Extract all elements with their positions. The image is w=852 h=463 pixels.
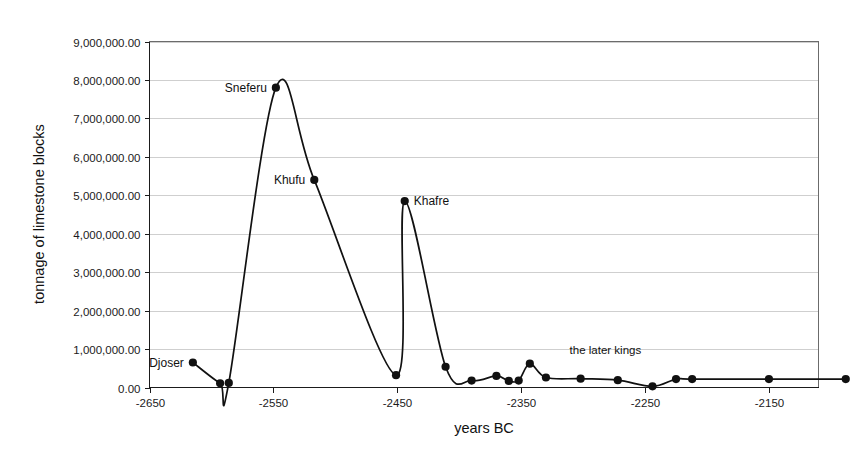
data-point-marker [401, 197, 409, 205]
chart-annotations: the later kings [570, 344, 642, 356]
x-tick-label: -2550 [259, 397, 288, 409]
data-point-marker [542, 373, 550, 381]
y-tick-label: 8,000,000.00 [73, 75, 140, 87]
y-tick-label: 1,000,000.00 [73, 344, 140, 356]
data-point-label: Sneferu [225, 81, 267, 95]
data-point-marker [468, 376, 476, 384]
chart-container: 0.001,000,000.002,000,000.003,000,000.00… [0, 0, 852, 463]
data-point-marker [216, 379, 224, 387]
y-tick-label: 2,000,000.00 [73, 306, 140, 318]
data-point-label: Djoser [149, 356, 184, 370]
y-tick-label: 4,000,000.00 [73, 229, 140, 241]
data-point-marker [272, 84, 280, 92]
data-point-label: Khufu [274, 173, 305, 187]
x-tick-label: -2250 [631, 397, 660, 409]
data-point-marker [505, 377, 513, 385]
y-axis-title: tonnage of limestone blocks [31, 124, 47, 304]
data-point-marker [688, 375, 696, 383]
data-point-marker [392, 371, 400, 379]
data-point-marker [648, 382, 656, 390]
data-point-marker [672, 375, 680, 383]
y-tick-label: 5,000,000.00 [73, 190, 140, 202]
x-tick-label: -2450 [383, 397, 412, 409]
data-point-marker [842, 375, 850, 383]
tonnage-line-chart: 0.001,000,000.002,000,000.003,000,000.00… [0, 0, 852, 463]
data-point-marker [577, 375, 585, 383]
data-point-marker [526, 360, 534, 368]
data-point-marker [515, 376, 523, 384]
data-point-marker [492, 372, 500, 380]
x-tick-label: -2150 [755, 397, 784, 409]
y-tick-label: 6,000,000.00 [73, 152, 140, 164]
x-axis-title: years BC [454, 420, 514, 436]
y-tick-label: 9,000,000.00 [73, 37, 140, 49]
data-point-marker [614, 376, 622, 384]
x-tick-label: -2350 [507, 397, 536, 409]
data-point-marker [765, 375, 773, 383]
data-point-marker [225, 379, 233, 387]
data-point-marker [189, 358, 197, 366]
chart-annotation: the later kings [570, 344, 642, 356]
y-tick-label: 0.00 [118, 383, 140, 395]
y-tick-label: 7,000,000.00 [73, 113, 140, 125]
data-point-marker [441, 363, 449, 371]
x-tick-label: -2650 [136, 397, 165, 409]
data-point-label: Khafre [414, 194, 450, 208]
y-tick-label: 3,000,000.00 [73, 267, 140, 279]
data-point-marker [310, 176, 318, 184]
